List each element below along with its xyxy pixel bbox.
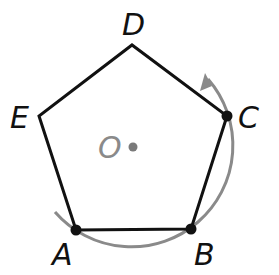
label-e: E	[10, 100, 29, 135]
pentagon-diagram: D E C A B O	[0, 0, 279, 275]
point-b	[186, 224, 197, 235]
pentagon-abcde	[39, 45, 227, 230]
center-point-o	[129, 143, 138, 152]
label-b: B	[194, 237, 215, 272]
label-o: O	[98, 130, 122, 165]
label-d: D	[122, 7, 145, 42]
point-c	[222, 111, 233, 122]
label-c: C	[238, 100, 259, 135]
label-a: A	[50, 237, 73, 272]
rotation-arc	[55, 79, 233, 247]
point-a	[71, 225, 82, 236]
